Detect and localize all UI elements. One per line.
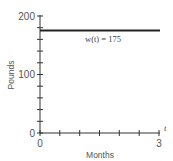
y-axis-title: Pounds [6,61,16,90]
y-tick-label-0: 0 [29,128,35,139]
x-tick-label-3: 3 [156,138,162,149]
x-axis-title: Months [86,150,114,160]
x-tick-label-0: 0 [37,138,43,149]
line-annotation: w(t) = 175 [85,34,121,44]
y-tick-label-100: 100 [18,69,35,80]
chart-canvas: 200 100 0 0 3 t Months Pounds w(t) = 175 [0,0,173,161]
x-axis-symbol: t [164,123,167,133]
y-tick-label-200: 200 [18,11,35,22]
